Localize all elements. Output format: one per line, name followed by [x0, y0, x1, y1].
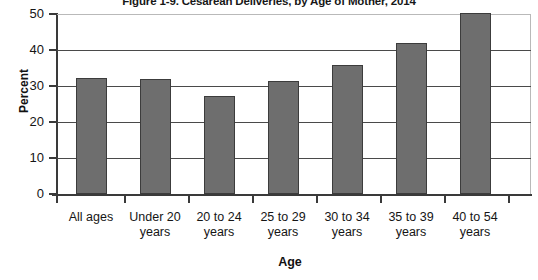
bar-40-to-54: [460, 13, 491, 194]
y-tick-50: [49, 13, 57, 15]
y-tick-30: [49, 85, 57, 87]
bar-25-to-29: [268, 81, 299, 194]
x-axis-label-line-2: years: [118, 225, 192, 240]
x-tick-6: [444, 196, 446, 203]
x-axis-label-25-to-29: 25 to 29 years: [246, 210, 320, 240]
x-tick-7: [508, 196, 510, 203]
x-axis-label-40-to-54: 40 to 54 years: [438, 210, 512, 240]
y-axis-label-0: 0: [10, 186, 44, 201]
y-tick-40: [49, 49, 57, 51]
x-axis-label-line-2: years: [182, 225, 256, 240]
y-axis-label-10: 10: [10, 150, 44, 165]
x-tick-4: [316, 196, 318, 203]
bar-35-to-39: [396, 43, 427, 194]
x-axis-label-line-1: 40 to 54: [438, 210, 512, 225]
x-axis-label-20-to-24: 20 to 24 years: [182, 210, 256, 240]
x-axis-label-all-ages: All ages: [54, 210, 128, 225]
x-axis-title: Age: [0, 255, 538, 269]
x-tick-0: [56, 196, 58, 203]
x-axis-label-line-1: 20 to 24: [182, 210, 256, 225]
y-axis-label-50: 50: [10, 6, 44, 21]
x-axis-label-line-2: years: [310, 225, 384, 240]
y-tick-0: [49, 193, 57, 195]
x-axis-label-line-1: Under 20: [118, 210, 192, 225]
y-tick-20: [49, 121, 57, 123]
x-tick-5: [380, 196, 382, 203]
x-tick-2: [188, 196, 190, 203]
x-axis-label-line-2: years: [246, 225, 320, 240]
x-axis-label-line-1: 30 to 34: [310, 210, 384, 225]
x-axis-label-line-2: years: [374, 225, 448, 240]
y-axis-line: [56, 13, 58, 196]
x-tick-1: [124, 196, 126, 203]
bar-20-to-24: [204, 96, 235, 194]
chart-title: Figure 1-9. Cesarean Deliveries, by Age …: [0, 0, 538, 7]
x-axis-label-line-1: All ages: [54, 210, 128, 225]
x-axis-label-line-2: years: [438, 225, 512, 240]
y-tick-10: [49, 157, 57, 159]
x-axis-label-line-1: 35 to 39: [374, 210, 448, 225]
x-axis-label-line-1: 25 to 29: [246, 210, 320, 225]
bar-all-ages: [76, 78, 107, 194]
x-axis-label-35-to-39: 35 to 39 years: [374, 210, 448, 240]
bar-under-20: [140, 79, 171, 194]
bar-30-to-34: [332, 65, 363, 194]
x-tick-3: [252, 196, 254, 203]
chart-figure: Figure 1-9. Cesarean Deliveries, by Age …: [0, 0, 538, 280]
x-axis-label-under-20: Under 20 years: [118, 210, 192, 240]
x-axis-label-30-to-34: 30 to 34 years: [310, 210, 384, 240]
y-axis-title: Percent: [17, 51, 31, 131]
